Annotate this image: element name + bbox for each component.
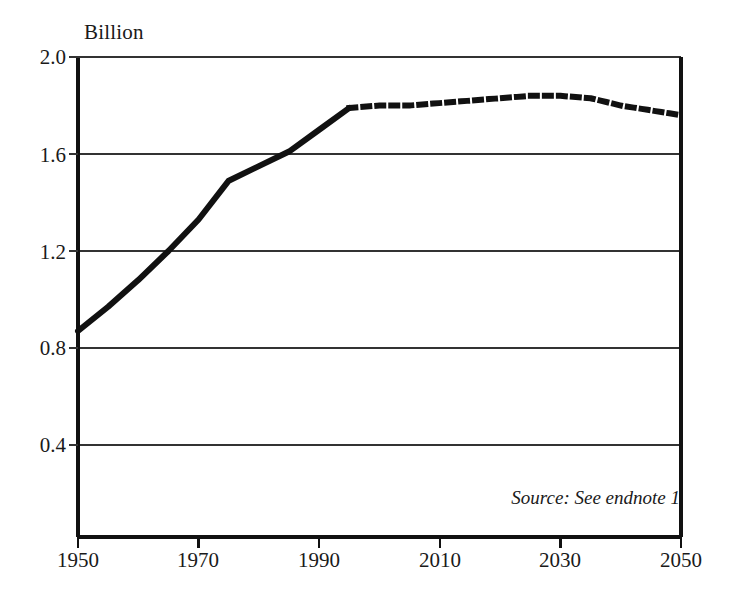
gridlines — [78, 154, 681, 445]
axis-ticks — [69, 57, 681, 548]
plot-area — [0, 0, 735, 610]
series-line-historical — [78, 108, 349, 331]
axis-lines — [78, 57, 681, 537]
series-line-projected — [349, 96, 681, 115]
chart-figure: Billion 2.0 1.6 1.2 0.8 0.4 1950 1970 19… — [0, 0, 735, 610]
data-series — [78, 96, 681, 331]
